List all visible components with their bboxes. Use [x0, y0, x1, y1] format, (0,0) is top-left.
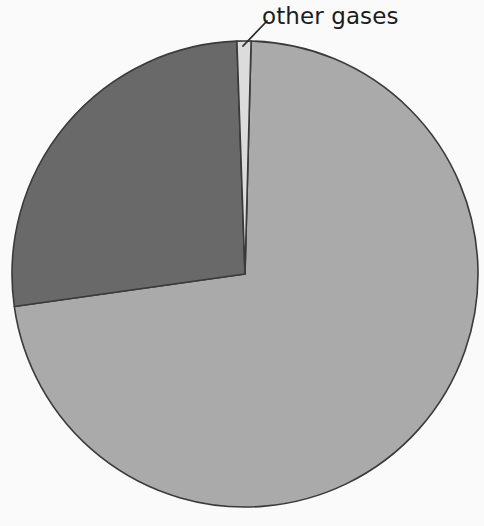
pie-slice-dark[interactable]	[12, 41, 245, 306]
pie-slices	[12, 41, 478, 507]
chart-canvas: other gases	[0, 0, 484, 526]
other-gases-label: other gases	[262, 3, 399, 29]
pie-chart: other gases	[0, 0, 484, 526]
